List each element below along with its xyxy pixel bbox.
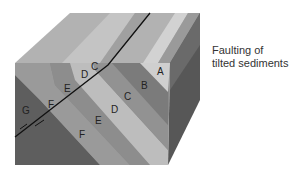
- label-C-top: C: [91, 61, 98, 72]
- caption-line-1: Faulting of: [212, 44, 288, 57]
- label-F: F: [79, 129, 85, 140]
- caption: Faulting of tilted sediments: [212, 44, 288, 70]
- label-C: C: [124, 91, 131, 102]
- label-A: A: [157, 66, 164, 77]
- block-diagram: C D E F G A B C D E F: [0, 0, 299, 175]
- label-D: D: [111, 104, 118, 115]
- label-E-top: E: [64, 83, 71, 94]
- label-E: E: [95, 115, 102, 126]
- label-G: G: [22, 105, 30, 116]
- label-B: B: [141, 80, 148, 91]
- caption-line-2: tilted sediments: [212, 57, 288, 70]
- label-D-top: D: [81, 69, 88, 80]
- label-F-top: F: [48, 99, 54, 110]
